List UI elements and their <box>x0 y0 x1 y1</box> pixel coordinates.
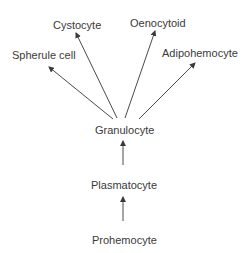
arrow-granulocyte-to-adipohemocyte <box>139 63 195 119</box>
node-spherule-cell: Spherule cell <box>12 49 76 61</box>
arrow-granulocyte-to-oenocytoid <box>125 31 155 118</box>
node-granulocyte: Granulocyte <box>95 124 154 136</box>
node-plasmatocyte: Plasmatocyte <box>91 179 157 191</box>
node-adipohemocyte: Adipohemocyte <box>162 47 238 59</box>
hemocyte-lineage-diagram: Cystocyte Oenocytoid Spherule cell Adipo… <box>0 0 249 253</box>
node-prohemocyte: Prohemocyte <box>92 234 157 246</box>
node-cystocyte: Cystocyte <box>53 19 101 31</box>
arrow-granulocyte-to-spherule-cell <box>49 67 113 119</box>
node-oenocytoid: Oenocytoid <box>130 17 186 29</box>
